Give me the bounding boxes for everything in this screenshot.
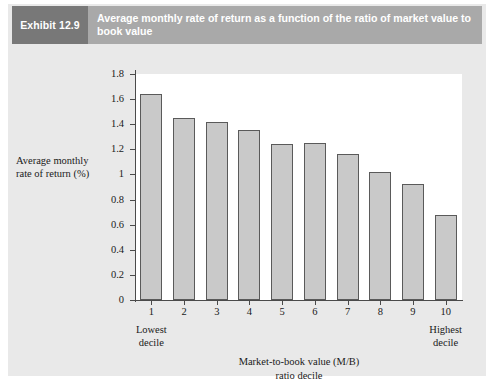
y-axis-tick — [130, 200, 135, 201]
highest-decile-line-1: Highest — [411, 323, 481, 336]
y-axis-tick-label: 0.2 — [80, 270, 124, 281]
y-axis-tick — [130, 149, 135, 150]
y-axis-tick-label: 1.6 — [80, 94, 124, 105]
y-axis-tick-label: 0.6 — [80, 220, 124, 231]
bar — [369, 172, 391, 300]
x-axis-tick-label: 1 — [136, 307, 166, 318]
x-axis-tick-label: 5 — [267, 307, 297, 318]
exhibit-title-band: Average monthly rate of return as a func… — [88, 6, 482, 44]
exhibit-figure: Exhibit 12.9 Average monthly rate of ret… — [8, 4, 486, 376]
x-axis-tick-label: 9 — [398, 307, 428, 318]
x-axis-tick — [315, 301, 316, 305]
exhibit-number-label: Exhibit 12.9 — [20, 19, 80, 31]
x-axis-tick — [282, 301, 283, 305]
x-axis-tick — [413, 301, 414, 305]
bar — [435, 215, 457, 300]
exhibit-title-text: Average monthly rate of return as a func… — [97, 12, 476, 39]
bar — [238, 130, 260, 300]
y-axis-tick — [130, 250, 135, 251]
highest-decile-line-2: decile — [411, 336, 481, 349]
y-axis-tick — [130, 300, 135, 301]
x-axis-tick-label: 8 — [365, 307, 395, 318]
y-axis-tick — [130, 99, 135, 100]
x-axis-tick — [348, 301, 349, 305]
y-axis-tick-label: 0 — [80, 295, 124, 306]
x-axis-tick — [151, 301, 152, 305]
y-axis-tick-label: 0.4 — [80, 245, 124, 256]
y-axis-title-line-1: Average monthly — [16, 154, 128, 167]
x-axis-tick-label: 3 — [202, 307, 232, 318]
bar — [140, 94, 162, 300]
y-axis-tick — [130, 225, 135, 226]
bar — [304, 143, 326, 300]
y-axis-tick-label: 0.8 — [80, 195, 124, 206]
y-axis-title-line-2: rate of return (%) — [16, 167, 128, 180]
lowest-decile-line-2: decile — [116, 336, 186, 349]
lowest-decile-annotation: Lowest decile — [116, 323, 186, 349]
y-axis-line — [135, 70, 136, 302]
bar — [271, 144, 293, 300]
lowest-decile-line-1: Lowest — [116, 323, 186, 336]
x-axis-tick-label: 2 — [169, 307, 199, 318]
bar — [173, 118, 195, 300]
y-axis-tick — [130, 124, 135, 125]
y-axis-tick — [130, 74, 135, 75]
y-axis-tick — [130, 275, 135, 276]
chart-region: 00.20.40.60.811.21.41.61.8 Average month… — [8, 46, 486, 376]
x-axis-tick — [446, 301, 447, 305]
bar — [206, 122, 228, 300]
y-axis-title: Average monthly rate of return (%) — [16, 154, 128, 180]
y-axis-tick-label: 1.8 — [80, 69, 124, 80]
x-axis-title: Market-to-book value (M/B) ratio decile — [135, 355, 463, 382]
x-axis-tick-label: 10 — [431, 307, 461, 318]
x-axis-title-line-1: Market-to-book value (M/B) — [135, 355, 463, 369]
bar — [337, 154, 359, 300]
x-axis-tick-label: 7 — [333, 307, 363, 318]
y-axis-tick — [130, 174, 135, 175]
x-axis-tick — [249, 301, 250, 305]
x-axis-tick-label: 6 — [300, 307, 330, 318]
bar — [402, 184, 424, 300]
x-axis-tick-label: 4 — [234, 307, 264, 318]
x-axis-tick — [380, 301, 381, 305]
y-axis-tick-label: 1.4 — [80, 119, 124, 130]
highest-decile-annotation: Highest decile — [411, 323, 481, 349]
x-axis-tick — [217, 301, 218, 305]
exhibit-header: Exhibit 12.9 Average monthly rate of ret… — [12, 6, 482, 44]
x-axis-tick — [184, 301, 185, 305]
exhibit-number-tab: Exhibit 12.9 — [12, 6, 88, 44]
x-axis-title-line-2: ratio decile — [135, 369, 463, 383]
